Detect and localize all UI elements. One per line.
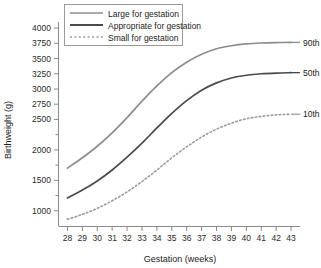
x-tick-label-42: 42 [271,233,281,243]
y-axis-tick-labels: 1000150020002500275030003250350037504000 [32,23,51,216]
birthweight-gestation-chart: 1000150020002500275030003250350037504000… [0,0,321,268]
y-axis-title: Birthweight (g) [3,101,13,159]
percentile-label-10th: 10th [303,109,320,119]
y-tick-label-2000: 2000 [32,145,51,155]
y-tick-label-1000: 1000 [32,206,51,216]
series-end-labels: 90th50th10th [291,38,320,120]
x-tick-label-37: 37 [197,233,207,243]
y-axis-ticks [54,28,59,211]
y-tick-label-3500: 3500 [32,54,51,64]
x-tick-label-33: 33 [137,233,147,243]
x-tick-label-38: 38 [212,233,222,243]
percentile-label-90th: 90th [303,38,320,48]
x-axis-tick-labels: 28293031323334353637383940414243 [63,233,296,243]
x-tick-label-41: 41 [257,233,267,243]
x-tick-label-35: 35 [167,233,177,243]
chart-legend: Large for gestation Appropriate for gest… [65,5,202,46]
y-tick-label-1500: 1500 [32,175,51,185]
x-tick-label-39: 39 [227,233,237,243]
x-tick-label-36: 36 [182,233,192,243]
x-axis-title: Gestation (weeks) [144,254,217,264]
y-tick-label-2750: 2750 [32,99,51,109]
x-tick-label-34: 34 [152,233,162,243]
series-curves [67,42,291,219]
x-tick-label-32: 32 [122,233,132,243]
legend-label-appropriate: Appropriate for gestation [108,21,201,31]
chart-svg: 1000150020002500275030003250350037504000… [0,0,321,268]
curve-90th [67,42,291,168]
x-tick-label-31: 31 [107,233,117,243]
y-tick-label-3000: 3000 [32,84,51,94]
curve-10th [67,114,291,219]
x-axis-ticks [67,227,291,232]
x-tick-label-40: 40 [242,233,252,243]
x-tick-label-30: 30 [93,233,103,243]
legend-label-large: Large for gestation [108,9,179,19]
x-tick-label-29: 29 [78,233,88,243]
legend-label-small: Small for gestation [108,33,179,43]
percentile-label-50th: 50th [303,68,320,78]
y-tick-label-3750: 3750 [32,38,51,48]
x-tick-label-43: 43 [286,233,296,243]
curve-50th [67,73,291,198]
y-tick-label-4000: 4000 [32,23,51,33]
x-tick-label-28: 28 [63,233,73,243]
y-tick-label-3250: 3250 [32,69,51,79]
y-tick-label-2500: 2500 [32,114,51,124]
